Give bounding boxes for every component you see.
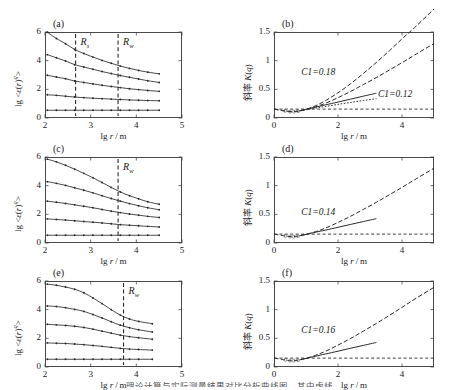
ytick-label-a: 4: [15, 55, 41, 65]
ytick-label-f: 1: [244, 304, 270, 314]
xtick-label-c: 4: [124, 245, 148, 255]
ytick-label-d: 0: [244, 237, 270, 247]
plot-area-e: [45, 281, 182, 367]
panel-label-e: (e): [53, 267, 64, 278]
ytick-label-f: 1.5: [244, 275, 270, 285]
panel-label-b: (b): [282, 18, 294, 29]
xtick-label-c: 3: [79, 245, 103, 255]
xtick-label-e: 4: [124, 369, 148, 379]
x-axis-title-a: lg r / m: [45, 131, 182, 141]
xtick-label-b: 4: [390, 120, 414, 130]
ytick-label-f: 0: [244, 361, 270, 371]
y-axis-title-a: lg <ε(r)q>: [11, 71, 23, 107]
x-axis-title-c: lg r / m: [45, 256, 182, 266]
annotation-f-0: C1=0.16: [301, 325, 335, 335]
plot-area-a: [45, 32, 182, 118]
xtick-label-e: 5: [170, 369, 194, 379]
xtick-label-a: 3: [79, 120, 103, 130]
vline-label-Rw-c: Rw: [123, 161, 133, 174]
x-axis-title-d: lg r / m: [274, 256, 434, 266]
y-axis-title-d: 斜率 K(q): [241, 189, 254, 226]
xtick-label-b: 2: [326, 120, 350, 130]
plot-area-c: [45, 157, 182, 243]
panel-label-d: (d): [282, 143, 294, 154]
xtick-label-d: 2: [326, 245, 350, 255]
ytick-label-b: 0: [244, 112, 270, 122]
ytick-label-a: 6: [15, 26, 41, 36]
plot-area-b: [274, 32, 434, 118]
panel-label-c: (c): [53, 143, 64, 154]
xtick-label-a: 5: [170, 120, 194, 130]
ytick-label-b: 1: [244, 55, 270, 65]
annotation-b-0: C1=0.18: [301, 67, 335, 77]
plot-area-d: [274, 157, 434, 243]
panel-label-a: (a): [53, 18, 64, 29]
plot-area-f: [274, 281, 434, 367]
ytick-label-c: 0: [15, 237, 41, 247]
xtick-label-e: 3: [79, 369, 103, 379]
x-axis-title-b: lg r / m: [274, 131, 434, 141]
annotation-d-0: C1=0.14: [301, 207, 335, 217]
figure-caption: 理论计算与实际测量结果对比分析曲线图，其中虚线: [0, 379, 458, 387]
vline-label-Rw-a: Rw: [123, 36, 133, 49]
vline-label-Rs-a: Rs: [81, 36, 90, 49]
y-axis-title-b: 斜率 K(q): [241, 64, 254, 101]
ytick-label-c: 4: [15, 180, 41, 190]
ytick-label-e: 6: [15, 275, 41, 285]
xtick-label-f: 2: [326, 369, 350, 379]
y-axis-title-c: lg <ε(r)q>: [11, 196, 23, 232]
ytick-label-d: 1.5: [244, 151, 270, 161]
xtick-label-c: 5: [170, 245, 194, 255]
y-axis-title-f: 斜率 K(q): [241, 313, 254, 350]
ytick-label-c: 6: [15, 151, 41, 161]
y-axis-title-e: lg <ε(r)q>: [11, 320, 23, 356]
panel-label-f: (f): [282, 267, 292, 278]
annotation-b-1: C1=0.12: [378, 89, 412, 99]
xtick-label-f: 4: [390, 369, 414, 379]
xtick-label-d: 4: [390, 245, 414, 255]
ytick-label-b: 1.5: [244, 26, 270, 36]
xtick-label-a: 4: [124, 120, 148, 130]
ytick-label-e: 4: [15, 304, 41, 314]
vline-label-Rw-e: Rw: [129, 285, 139, 298]
ytick-label-e: 0: [15, 361, 41, 371]
ytick-label-a: 0: [15, 112, 41, 122]
ytick-label-d: 1: [244, 180, 270, 190]
